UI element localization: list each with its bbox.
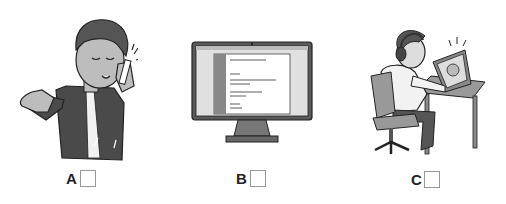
- option-b-label: B: [236, 170, 247, 187]
- option-a-checkbox[interactable]: [80, 170, 96, 187]
- option-b-checkbox[interactable]: [250, 170, 266, 187]
- desktop-monitor-illustration: [190, 38, 315, 146]
- video-call-illustration: [365, 14, 490, 159]
- option-c-label: C: [411, 171, 422, 188]
- option-a-label: A: [66, 170, 77, 187]
- option-c-checkbox[interactable]: [424, 171, 440, 188]
- man-on-phone-illustration: [18, 8, 138, 163]
